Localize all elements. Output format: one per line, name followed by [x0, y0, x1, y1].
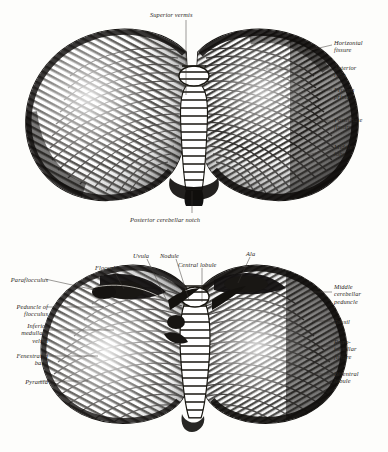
- label-pyramid: Pyramid: [0, 378, 48, 385]
- label-central-lobule: Central lobule: [178, 261, 217, 268]
- label-fissura-prima: Fissura prima: [334, 86, 354, 101]
- label-paraflocculus: Paraflocculus: [0, 276, 48, 283]
- label-tonsil: Tonsil: [334, 318, 350, 325]
- cerebellum-illustration: [0, 0, 388, 452]
- label-anterior-lobe: Anterior lobe: [334, 64, 356, 79]
- label-fenestrated-band: Fenestrated band: [0, 352, 48, 367]
- label-retrotonsillar-fissure: Retro- tonsillar fissure: [334, 338, 357, 360]
- figure-inferior-view: [36, 258, 356, 434]
- label-superior-vermis: Superior vermis: [150, 11, 193, 18]
- label-middle-lobe: Middle lobe: [334, 143, 353, 158]
- label-uvula: Uvula: [133, 252, 149, 259]
- label-nodule: Nodule: [160, 252, 179, 259]
- anatomical-plate: Superior vermisHorizontal fissureAnterio…: [0, 0, 388, 452]
- label-posterior-cerebellar-notch: Posterior cerebellar notch: [130, 216, 200, 223]
- label-postlunate-fissure: Postlunate fissure: [334, 116, 362, 131]
- label-middle-cerebellar-peduncle: Middle cerebellar peduncle: [334, 283, 361, 305]
- label-inferior-medullary-velum: Inferior medullary velum: [0, 322, 48, 344]
- label-horizontal-fissure: Horizontal fissure: [334, 39, 363, 54]
- label-flocculus: Flocculus: [95, 264, 121, 271]
- label-biventral-lobule: Biventral lobule: [334, 370, 359, 385]
- label-ala: Ala: [246, 250, 255, 257]
- label-peduncle-of-flocculus: Peduncle of flocculus: [0, 303, 48, 318]
